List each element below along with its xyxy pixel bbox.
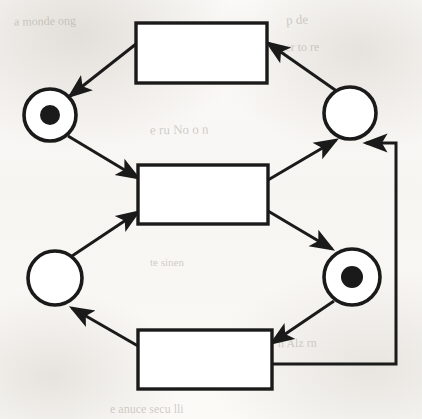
arc-transition-middle-to-place-top-right [268, 140, 336, 180]
arc-transition-top-to-place-top-left [70, 44, 136, 96]
transition-middle-box [138, 165, 268, 224]
transition-bottom-box [138, 330, 272, 389]
arc-transition-middle-to-place-bottom-right [268, 211, 332, 249]
transitions-layer [136, 23, 272, 389]
place-top-right-circle [324, 87, 376, 139]
arc-place-bottom-right-to-transition-bottom [272, 301, 334, 343]
place-top-left-token [40, 105, 60, 125]
place-bottom-right-token [341, 266, 363, 288]
place-bottom-left [28, 251, 82, 305]
place-bottom-right [324, 249, 380, 305]
transition-middle [138, 165, 268, 224]
diagram-canvas: a monde ongp demger to rea moinee ru No … [0, 0, 422, 419]
place-top-right [324, 87, 376, 139]
transition-top-box [136, 23, 267, 83]
transition-bottom [138, 330, 272, 389]
petri-net-diagram [0, 0, 422, 419]
arc-place-bottom-left-to-transition-middle [72, 212, 138, 256]
arc-place-top-right-to-transition-top [268, 43, 338, 92]
transition-top [136, 23, 267, 83]
place-top-left [24, 89, 76, 141]
arc-transition-bottom-to-place-bottom-left [72, 308, 138, 346]
place-bottom-left-circle [28, 251, 82, 305]
arc-place-top-left-to-transition-middle [68, 136, 138, 178]
